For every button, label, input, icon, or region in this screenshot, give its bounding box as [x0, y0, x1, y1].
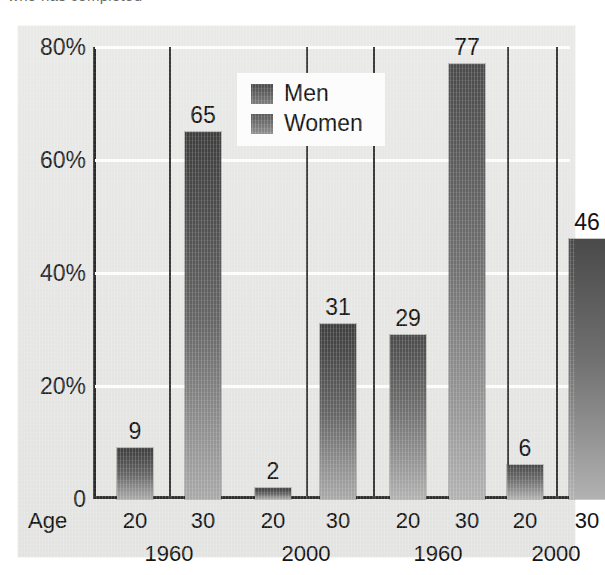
bar	[390, 335, 426, 499]
x-tick-label: 30	[455, 508, 479, 534]
bar-value-label: 65	[190, 102, 216, 129]
bar	[320, 324, 356, 499]
bar	[449, 64, 485, 499]
legend-label-men: Men	[284, 82, 329, 105]
x-axis-age-label: Age	[28, 508, 67, 534]
bar-value-label: 46	[574, 209, 600, 236]
bar-value-label: 6	[519, 435, 532, 462]
group-divider	[507, 47, 509, 499]
legend-item-women: Women	[251, 112, 363, 135]
x-tick-label: 20	[513, 508, 537, 534]
bar	[569, 239, 605, 499]
truncated-caption-text: who has completed	[8, 0, 142, 4]
x-tick-label: 30	[326, 508, 350, 534]
bar-value-label: 29	[395, 305, 421, 332]
truncated-caption: who has completed	[0, 0, 588, 22]
y-tick-label: 20%	[40, 373, 86, 400]
x-tick-label: 30	[575, 508, 599, 534]
x-tick-label: 20	[261, 508, 285, 534]
x-group-label: 2000	[532, 541, 581, 567]
chart-legend: Men Women	[237, 73, 385, 146]
x-tick-label: 20	[396, 508, 420, 534]
bar	[185, 132, 221, 499]
bar-value-label: 77	[454, 34, 480, 61]
gridline	[95, 272, 570, 275]
x-group-label: 1960	[414, 541, 463, 567]
legend-swatch-men-icon	[251, 84, 273, 104]
bar-value-label: 31	[325, 294, 351, 321]
gridline	[95, 46, 570, 49]
x-tick-label: 20	[123, 508, 147, 534]
legend-item-men: Men	[251, 82, 363, 105]
group-divider	[556, 47, 558, 499]
group-divider	[169, 47, 171, 499]
bar-value-label: 2	[267, 458, 280, 485]
legend-label-women: Women	[284, 112, 363, 135]
bar-value-label: 9	[129, 418, 142, 445]
bar	[117, 448, 153, 499]
y-tick-label: 40%	[40, 260, 86, 287]
x-tick-label: 30	[191, 508, 215, 534]
legend-swatch-women-icon	[251, 114, 273, 134]
bar	[507, 465, 543, 499]
bar	[255, 488, 291, 499]
gridline	[95, 159, 570, 162]
y-tick-label: 80%	[40, 34, 86, 61]
x-group-label: 1960	[145, 541, 194, 567]
chart-panel: 80%60%40%20%0 9652312977646 Men Women Ag…	[18, 26, 575, 557]
y-tick-label: 0	[73, 486, 86, 513]
y-tick-label: 60%	[40, 147, 86, 174]
x-group-label: 2000	[282, 541, 331, 567]
